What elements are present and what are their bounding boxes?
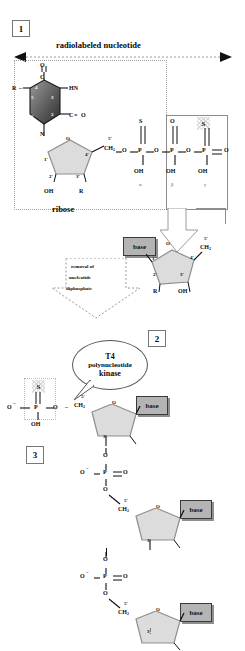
panel-1-border-right-top: [166, 60, 167, 115]
residue-3-ring-oxygen: O: [156, 607, 160, 612]
alpha-top-sulfur: S: [139, 118, 142, 124]
gamma-double-bond: [202, 128, 212, 148]
panel-1-label: 1: [19, 24, 24, 34]
base-r-bond-dash: –: [19, 85, 22, 91]
ribose-c4: 4': [85, 152, 89, 157]
chain-continuation-dotted: [150, 628, 151, 634]
enzyme-line-1: T4: [88, 352, 132, 361]
enzyme-line-3: kinase: [88, 369, 132, 378]
product-ribose-oh: OH: [178, 288, 187, 294]
beta-oh-bond: [172, 155, 178, 167]
gamma-oh-bond: [204, 155, 210, 167]
residue-2-c3-label: 3': [147, 538, 151, 543]
beta-greek-label: β: [171, 182, 174, 187]
base-carbonyl-carbon: C: [40, 74, 44, 80]
base-n3-label: HN: [69, 85, 78, 91]
panel-3-label: 3: [33, 450, 38, 460]
nucleotide-c5-ch2: CH2: [104, 145, 115, 152]
internal-phosphate-2-down-oxygen: O: [103, 590, 108, 596]
product-ribose-c3: 3': [180, 272, 184, 277]
internal-phosphate-1-left-charge: −: [86, 466, 89, 471]
alpha-double-bond: [138, 126, 148, 146]
residue-1-base-label: base: [145, 402, 158, 410]
alpha-phosphorus: P: [138, 147, 142, 153]
residue-2-base-label: base: [189, 506, 202, 514]
beta-phosphorus: P: [170, 147, 174, 153]
product-ribose-c1: 1': [152, 256, 156, 261]
removal-arrow-line3: diphosphate: [66, 286, 92, 291]
internal-phosphate-1-down-oxygen: O: [103, 486, 108, 492]
base-position-2: 2: [51, 112, 54, 117]
residue-1-bond-dash: –: [65, 404, 68, 410]
residue-1-c5-label: 5': [81, 394, 85, 399]
residue-1-sugar-ring: [86, 404, 146, 454]
base-position-3: 3: [51, 95, 54, 100]
internal-phosphate-1-up-oxygen: O: [103, 452, 108, 458]
gamma-terminal-oxygen: O: [224, 147, 229, 153]
product-c5-ch2: CH2: [200, 244, 211, 251]
base-position-1: 1: [40, 124, 43, 129]
internal-phosphate-1-phosphorus: P: [103, 469, 107, 475]
product-ribose-c2: 2': [153, 272, 157, 277]
base-top-oxygen: O: [40, 62, 45, 68]
internal-phosphate-2-up-oxygen: O: [103, 556, 108, 562]
base-c2-double-bond: =: [74, 112, 77, 118]
residue-2-to-phosphate-link: [106, 548, 107, 556]
beta-bridge-oxygen: O: [154, 147, 159, 153]
alpha-bridge-oxygen: O: [122, 147, 127, 153]
alpha-oh-bond: [140, 155, 146, 167]
gamma-hydroxyl: OH: [198, 168, 207, 174]
residue-1-ring-oxygen: O: [112, 400, 116, 405]
gamma-route-connector: [196, 208, 226, 209]
base-c2-label: C: [69, 112, 73, 118]
beta-double-bond: [170, 126, 180, 146]
removal-arrow-line2: nucleotide: [69, 275, 91, 280]
terminal-hydroxyl: OH: [31, 421, 40, 427]
ribose-ring-oxygen: O: [66, 136, 70, 141]
base-r-substituent: R: [12, 85, 16, 91]
ribose-c2-hydroxyl: OH: [44, 188, 53, 194]
product-c5-prime-label: 5': [204, 236, 208, 241]
product-ribose-r: R: [153, 288, 157, 294]
base-position-4: 4: [35, 85, 38, 90]
ribose-c1: 1': [44, 157, 48, 162]
terminal-left-oxygen: O: [7, 404, 12, 410]
panel-2-label: 2: [155, 334, 160, 344]
panel-1-header: radiolabeled nucleotide: [56, 41, 141, 50]
internal-phosphate-1-bonds: [86, 448, 152, 490]
internal-phosphate-1-left-oxygen: O: [80, 469, 85, 475]
removal-arrow-line1: removal of: [71, 264, 94, 269]
ribose-c3-r: R: [79, 188, 83, 194]
gamma-bridge-oxygen: O: [186, 147, 191, 153]
residue-3-ch2: CH2: [118, 609, 129, 616]
residue-3-sugar-ring: [130, 611, 190, 651]
beta-hydroxyl: OH: [166, 168, 175, 174]
base-c2-oxygen: O: [81, 112, 86, 118]
product-base-label: base: [133, 243, 146, 251]
panel-number-1: 1: [12, 20, 30, 37]
terminal-phosphorus: P: [34, 404, 38, 410]
ribose-caption: ribose: [52, 205, 74, 214]
internal-phosphate-2-phosphorus: P: [103, 573, 107, 579]
product-ribose-c4: 4': [190, 255, 194, 260]
beta-top-oxygen: O: [170, 118, 175, 124]
alpha-greek-label: α: [139, 182, 142, 187]
residue-1-ch2: CH2: [74, 402, 85, 409]
residue-2-c5-label: 5': [124, 498, 128, 503]
gamma-greek-label: γ: [204, 182, 206, 187]
gamma-route-vertical: [225, 208, 226, 224]
internal-phosphate-2-left-charge: −: [86, 570, 89, 575]
ribose-c2: 2': [49, 174, 53, 179]
internal-phosphate-2-right-oxygen: O: [123, 573, 128, 579]
enzyme-line-2: polynucleotide: [88, 361, 132, 369]
alpha-hydroxyl: OH: [134, 168, 143, 174]
product-ribose-oxygen: O: [166, 241, 170, 246]
base-position-6: 6: [31, 114, 34, 119]
residue-3-c5-label: 5': [124, 601, 128, 606]
residue-3-base-label: base: [189, 609, 202, 617]
internal-phosphate-2-bonds: [86, 552, 152, 594]
nucleotide-c5-prime-label: 5': [108, 136, 112, 141]
ribose-c3: 3': [76, 174, 80, 179]
residue-2-sugar-ring: [130, 508, 190, 558]
